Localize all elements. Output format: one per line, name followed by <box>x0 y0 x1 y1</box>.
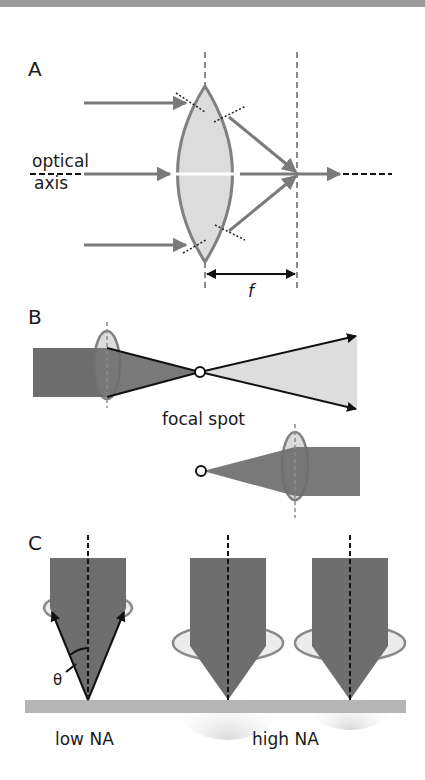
panel-b: B focal spot <box>28 305 360 518</box>
refracted-ray-top <box>229 117 296 172</box>
panel-c-label: C <box>28 531 42 555</box>
expanding-beam <box>203 447 360 496</box>
low-na-label: low NA <box>55 729 114 749</box>
focal-spot-marker-1 <box>195 367 205 377</box>
focal-spot-label: focal spot <box>162 409 245 429</box>
optical-axis-label-line2: axis <box>34 173 68 193</box>
refracted-ray-bottom <box>229 176 296 231</box>
diverging-beam <box>200 336 357 409</box>
high-na-label: high NA <box>252 729 319 749</box>
panel-b-label: B <box>28 305 42 329</box>
panel-a-label: A <box>28 57 42 81</box>
panel-a: A optical axis f <box>28 52 392 301</box>
optics-diagram: A optical axis f B <box>0 0 425 780</box>
converging-beam <box>33 348 200 397</box>
panel-c: C θ low NA high NA <box>25 531 406 749</box>
sample-surface <box>25 700 406 713</box>
focal-spot-marker-2 <box>196 466 206 476</box>
optical-axis-label-line1: optical <box>32 151 89 171</box>
focal-length-label: f <box>248 281 257 301</box>
theta-label: θ <box>53 671 62 689</box>
